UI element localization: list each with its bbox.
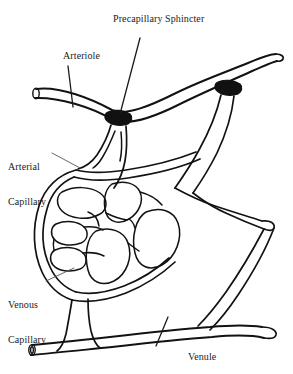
precapillary-sphincter-right [215, 80, 242, 95]
venous-capillary-vessel [57, 299, 100, 351]
label-arterial-capillary-line2: Capillary [8, 196, 46, 208]
label-arteriole: Arteriole [63, 50, 100, 62]
venule-vessel [29, 326, 276, 356]
label-venous-capillary-line2: Capillary [8, 334, 46, 346]
label-venous-capillary-line1: Venous [8, 299, 46, 311]
arterial-capillary-main [74, 152, 200, 180]
leader-arteriole [68, 66, 73, 107]
label-venous-capillary: Venous Capillary [8, 276, 46, 368]
capillary-bed-network [34, 170, 179, 301]
label-venule: Venule [188, 351, 216, 363]
venule-right-branch [198, 228, 274, 330]
arterial-branch-right [175, 95, 234, 193]
label-arterial-capillary-line1: Arterial [8, 161, 46, 173]
right-connecting-vessel [175, 188, 274, 230]
label-precapillary-sphincter: Precapillary Sphincter [113, 13, 204, 25]
label-arterial-capillary: Arterial Capillary [8, 138, 46, 230]
leader-arterial-capillary [52, 153, 80, 168]
leader-precapillary-sphincter [120, 38, 140, 114]
capillary-bed-figure: Precapillary Sphincter Arteriole Arteria… [0, 0, 293, 374]
precapillary-sphincter-left [105, 110, 132, 125]
